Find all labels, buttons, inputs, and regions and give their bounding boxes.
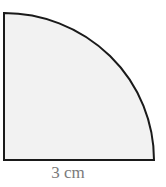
quarter-circle-sector	[4, 13, 154, 160]
quarter-circle-figure	[0, 0, 166, 187]
radius-label: 3 cm	[42, 163, 94, 183]
